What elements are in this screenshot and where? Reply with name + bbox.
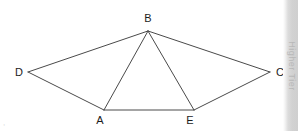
- segments-group: [28, 31, 270, 110]
- side-scroll-strip: Higher Tier: [283, 0, 298, 131]
- segment-BE: [148, 31, 194, 110]
- vertex-label-E: E: [186, 115, 193, 126]
- segment-EC: [194, 72, 270, 110]
- geometry-figure-screenshot: BDCAE Higher Tier ,: [0, 0, 298, 131]
- segment-DA: [28, 72, 104, 110]
- segment-DB: [28, 31, 148, 72]
- segment-BA: [104, 31, 148, 110]
- vertex-label-B: B: [144, 13, 151, 24]
- vertex-label-D: D: [15, 67, 23, 78]
- segment-BC: [148, 31, 270, 72]
- side-strip-label: Higher Tier: [286, 41, 295, 91]
- corner-artifact-mark: ,: [3, 119, 7, 126]
- vertex-label-A: A: [96, 115, 103, 126]
